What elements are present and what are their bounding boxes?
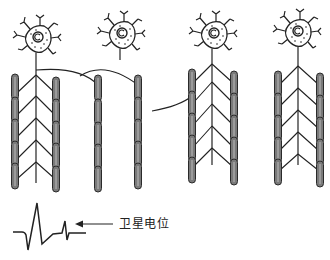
- motor-unit-1: [12, 15, 62, 192]
- waveform-trace: [13, 203, 86, 250]
- neuron-icon: [189, 11, 237, 50]
- satellite-potential-label: 卫星电位: [119, 214, 169, 231]
- neuron-icon: [13, 15, 61, 54]
- neuron-icon: [97, 11, 145, 50]
- motor-unit-4: [273, 9, 324, 187]
- motor-unit-2: [95, 11, 146, 192]
- neuron-icon: [273, 9, 321, 48]
- motor-unit-3: [189, 11, 238, 185]
- motor-unit-diagram: 卫星电位: [0, 0, 330, 260]
- collateral-sprout: [152, 96, 192, 111]
- collateral-sprout: [36, 69, 138, 85]
- arrow-icon: [75, 221, 113, 228]
